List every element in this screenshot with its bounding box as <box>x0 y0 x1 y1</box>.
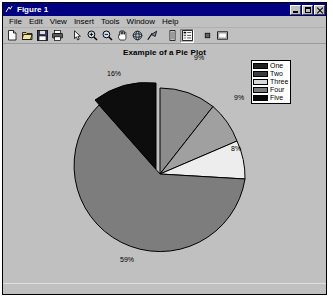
arrow-pointer-icon[interactable] <box>70 29 84 43</box>
close-button[interactable] <box>314 5 325 15</box>
window-controls <box>290 5 325 15</box>
legend-item-four: Four <box>253 86 288 94</box>
figure-canvas[interactable]: Example of a Pie Plot 9% 9% <box>3 44 326 283</box>
colorbar-icon[interactable] <box>165 29 179 43</box>
zoom-out-icon[interactable] <box>100 29 114 43</box>
pie-label-three: 8% <box>231 145 241 152</box>
menu-item-file[interactable]: File <box>6 16 26 27</box>
legend-swatch-five <box>253 95 268 101</box>
figure-window: Figure 1 File Edit View Insert Tools Win… <box>2 2 327 295</box>
screenshot-root: Figure 1 File Edit View Insert Tools Win… <box>0 0 333 302</box>
legend-swatch-four <box>253 87 268 93</box>
minimize-button[interactable] <box>290 5 301 15</box>
legend-item-one: One <box>253 62 288 70</box>
menu-item-insert[interactable]: Insert <box>71 16 98 27</box>
legend-swatch-one <box>253 63 268 69</box>
menu-item-help[interactable]: Help <box>159 16 182 27</box>
pie-label-five: 16% <box>107 70 121 77</box>
hand-pan-icon[interactable] <box>115 29 129 43</box>
open-folder-icon[interactable] <box>20 29 34 43</box>
window-title: Figure 1 <box>17 5 290 14</box>
legend-label-five: Five <box>270 94 283 102</box>
menu-item-view[interactable]: View <box>47 16 71 27</box>
legend-label-one: One <box>270 62 283 70</box>
legend-label-three: Three <box>270 78 288 86</box>
chart-legend[interactable]: One Two Three Four Five <box>251 60 291 104</box>
hide-plot-tools-icon[interactable] <box>200 29 214 43</box>
legend-icon[interactable] <box>180 29 194 43</box>
printer-icon[interactable] <box>50 29 64 43</box>
data-cursor-icon[interactable] <box>145 29 159 43</box>
menu-item-window[interactable]: Window <box>124 16 159 27</box>
toolbar <box>3 28 326 44</box>
legend-swatch-two <box>253 71 268 77</box>
legend-label-two: Two <box>270 70 283 78</box>
show-plot-tools-icon[interactable] <box>215 29 229 43</box>
pie-label-two: 9% <box>234 94 244 101</box>
window-titlebar[interactable]: Figure 1 <box>3 3 326 16</box>
pie-label-one: 9% <box>194 54 204 61</box>
statusbar <box>3 283 326 294</box>
legend-swatch-three <box>253 79 268 85</box>
menu-item-edit[interactable]: Edit <box>26 16 47 27</box>
maximize-button[interactable] <box>302 5 313 15</box>
legend-item-two: Two <box>253 70 288 78</box>
legend-label-four: Four <box>270 86 284 94</box>
legend-item-three: Three <box>253 78 288 86</box>
menubar: File Edit View Insert Tools Window Help <box>3 16 326 28</box>
save-disk-icon[interactable] <box>35 29 49 43</box>
pie-label-four: 59% <box>120 256 134 263</box>
legend-item-five: Five <box>253 94 288 102</box>
rotate-3d-icon[interactable] <box>130 29 144 43</box>
zoom-in-icon[interactable] <box>85 29 99 43</box>
new-page-icon[interactable] <box>5 29 19 43</box>
menu-item-tools[interactable]: Tools <box>98 16 124 27</box>
matlab-figure-icon <box>5 5 14 14</box>
